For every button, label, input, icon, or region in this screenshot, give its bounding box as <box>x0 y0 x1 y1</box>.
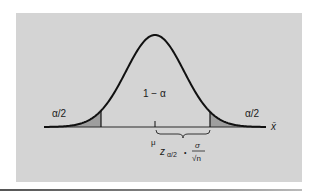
z-symbol: z <box>159 146 165 157</box>
left-tail-label: α/2 <box>52 108 67 119</box>
confidence-interval-diagram: 1 − α α/2 α/2 x̄ μ z α/2 • σ √n <box>0 0 320 192</box>
bottom-rule <box>0 189 302 191</box>
right-tail-label: α/2 <box>245 108 260 119</box>
sqrt-n-denominator: √n <box>192 154 201 163</box>
z-subscript: α/2 <box>167 151 177 158</box>
x-axis-label: x̄ <box>270 121 277 132</box>
center-area-label: 1 − α <box>143 88 166 99</box>
mean-label: μ <box>151 138 156 147</box>
